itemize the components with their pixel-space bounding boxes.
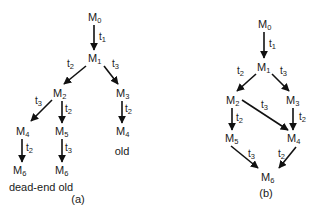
node-b1: M1: [257, 61, 270, 75]
diagram-a-edges: [22, 25, 122, 162]
edge-label: t3: [35, 95, 42, 108]
edge-label: t1: [269, 38, 276, 51]
edge-label: t2: [125, 103, 132, 116]
node-b0: M0: [258, 18, 271, 32]
node-a1: M1: [88, 52, 101, 66]
caption-b: (b): [259, 187, 272, 199]
edge-label: t2: [67, 58, 74, 71]
node-b6: M6: [261, 171, 274, 185]
caption-a: (a): [71, 193, 84, 205]
node-b4: M4: [287, 132, 300, 146]
edge-label: t3: [248, 148, 255, 161]
node-a6: M4: [116, 125, 129, 139]
node-a4: M4: [16, 125, 29, 139]
edge-label: t2: [236, 112, 243, 125]
node-a0: M0: [88, 11, 101, 25]
reachability-diagrams: t1 t2 t3 t3 t2 t2 t2 t3 M0 M1 M2 M3 M4 M…: [0, 0, 319, 215]
edge-label: t3: [261, 99, 268, 112]
edge-label: t2: [237, 65, 244, 78]
node-a7: M6: [13, 164, 26, 178]
node-a3: M3: [116, 87, 129, 101]
edge-label: t2: [26, 142, 33, 155]
edge-label: t1: [99, 31, 106, 44]
edge-label: t3: [65, 142, 72, 155]
annotation-dead-end-old: dead-end old: [9, 181, 73, 193]
edge-label: t2: [65, 103, 72, 116]
node-a5: M5: [55, 125, 68, 139]
edge-label: t3: [112, 58, 119, 71]
edge-label: t2: [299, 111, 306, 124]
edge-label: t3: [280, 65, 287, 78]
node-b3: M3: [286, 94, 299, 108]
edge-label: t2: [278, 148, 285, 161]
node-b5: M5: [225, 132, 238, 146]
node-a8: M6: [55, 164, 68, 178]
node-a2: M2: [53, 87, 66, 101]
annotation-old: old: [115, 145, 130, 157]
node-b2: M2: [226, 94, 239, 108]
